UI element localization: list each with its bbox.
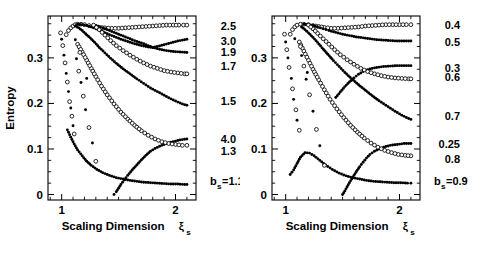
data-point xyxy=(310,64,314,68)
data-point xyxy=(407,40,410,43)
data-series xyxy=(297,40,412,158)
data-point xyxy=(140,180,143,183)
data-point xyxy=(81,94,85,98)
data-point xyxy=(325,51,328,54)
data-point xyxy=(84,108,87,111)
data-point xyxy=(156,47,159,50)
data-point xyxy=(98,81,102,85)
data-point xyxy=(376,180,379,183)
data-point xyxy=(160,44,163,47)
data-point xyxy=(185,72,189,76)
data-point xyxy=(60,38,63,41)
data-point xyxy=(373,66,376,69)
data-point xyxy=(88,25,91,28)
data-point xyxy=(302,153,305,156)
data-point xyxy=(145,63,149,67)
data-point xyxy=(166,69,170,73)
curve-annotation-value: 0.6 xyxy=(445,71,460,83)
data-point xyxy=(407,142,410,145)
data-point xyxy=(167,182,170,185)
data-point xyxy=(313,29,317,33)
data-point xyxy=(305,55,309,59)
data-point xyxy=(67,90,70,93)
data-point xyxy=(291,87,295,91)
data-point xyxy=(85,77,88,80)
curve-annotation-value: 1.7 xyxy=(221,60,236,72)
data-point xyxy=(340,113,344,117)
data-point xyxy=(167,96,170,99)
data-point xyxy=(339,32,342,35)
data-point xyxy=(107,55,110,58)
data-point xyxy=(310,153,313,156)
data-point xyxy=(130,121,134,125)
data-point xyxy=(83,56,87,60)
data-point xyxy=(147,44,150,47)
data-point xyxy=(293,37,296,40)
data-point xyxy=(386,150,390,154)
data-point xyxy=(407,64,410,67)
data-point xyxy=(150,135,154,139)
data-point xyxy=(292,98,295,101)
data-point xyxy=(349,176,352,179)
data-point xyxy=(92,72,96,76)
data-point xyxy=(106,28,109,31)
data-point xyxy=(315,128,319,132)
data-point xyxy=(389,107,392,110)
data-point xyxy=(117,107,121,111)
data-point xyxy=(359,36,362,39)
data-point xyxy=(119,34,122,37)
data-point xyxy=(380,39,383,42)
data-point xyxy=(94,167,97,170)
data-point xyxy=(315,75,319,79)
data-point xyxy=(315,39,318,42)
data-point xyxy=(72,140,75,143)
data-point xyxy=(181,39,184,42)
data-point xyxy=(403,77,407,81)
data-point xyxy=(113,193,116,196)
data-point xyxy=(286,56,289,59)
data-point xyxy=(285,48,289,52)
data-point xyxy=(362,87,365,90)
data-point xyxy=(400,153,404,157)
curve-annotation-value: 1.3 xyxy=(221,145,236,157)
data-point xyxy=(387,23,391,27)
data-point xyxy=(333,104,337,108)
data-point xyxy=(333,26,337,30)
data-point xyxy=(387,145,390,148)
data-point xyxy=(337,92,340,95)
data-point xyxy=(174,100,177,103)
data-point xyxy=(62,54,65,57)
curve-annotation-value: 0.7 xyxy=(445,110,460,122)
data-point xyxy=(154,24,158,28)
data-point xyxy=(287,66,291,70)
y-tick-label: 0.3 xyxy=(251,52,267,64)
x-axis-symbol: ξ xyxy=(403,220,409,233)
data-point xyxy=(360,134,364,138)
data-series xyxy=(341,142,412,196)
data-point xyxy=(342,191,345,194)
data-point xyxy=(400,142,403,145)
data-point xyxy=(336,63,339,66)
curve-annotation-value: 0.4 xyxy=(445,19,461,31)
data-point xyxy=(407,117,410,120)
data-point xyxy=(360,163,363,166)
data-point xyxy=(400,40,403,43)
data-point xyxy=(134,165,137,168)
data-point xyxy=(121,181,124,184)
data-series xyxy=(113,138,189,196)
chart-panel-left: 00.10.20.312EntropyScaling Dimensionξs2.… xyxy=(0,0,240,261)
data-point xyxy=(363,159,366,162)
data-point xyxy=(400,64,403,67)
x-axis-symbol: ξ xyxy=(179,220,185,233)
y-tick-label: 0.3 xyxy=(27,52,43,64)
data-point xyxy=(393,152,397,156)
data-point xyxy=(319,26,322,29)
data-point xyxy=(306,151,309,154)
data-point xyxy=(113,60,116,63)
data-point xyxy=(353,128,357,132)
curve-annotation-parameter: b xyxy=(434,175,441,187)
data-point xyxy=(394,39,397,42)
data-point xyxy=(185,143,189,147)
data-point xyxy=(74,38,77,41)
data-point xyxy=(379,147,383,151)
